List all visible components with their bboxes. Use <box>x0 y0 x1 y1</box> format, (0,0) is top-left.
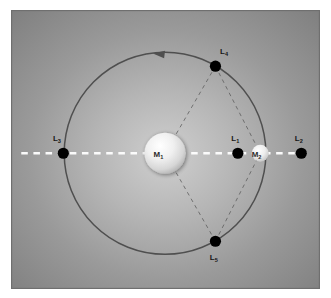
primary-sphere <box>144 133 185 174</box>
figure-root: M1 M2 L1 L2 L3 L4 L5 <box>0 0 331 298</box>
lagrange-point-l5 <box>210 236 221 247</box>
lagrange-point-l1 <box>232 148 243 159</box>
lagrange-point-l4 <box>210 61 221 72</box>
lagrange-point-l3 <box>58 148 69 159</box>
lagrange-point-l2 <box>296 148 307 159</box>
diagram-panel: M1 M2 L1 L2 L3 L4 L5 <box>11 10 320 289</box>
body-primary: M1 <box>144 133 185 174</box>
lagrange-diagram: M1 M2 L1 L2 L3 L4 L5 <box>11 10 320 289</box>
